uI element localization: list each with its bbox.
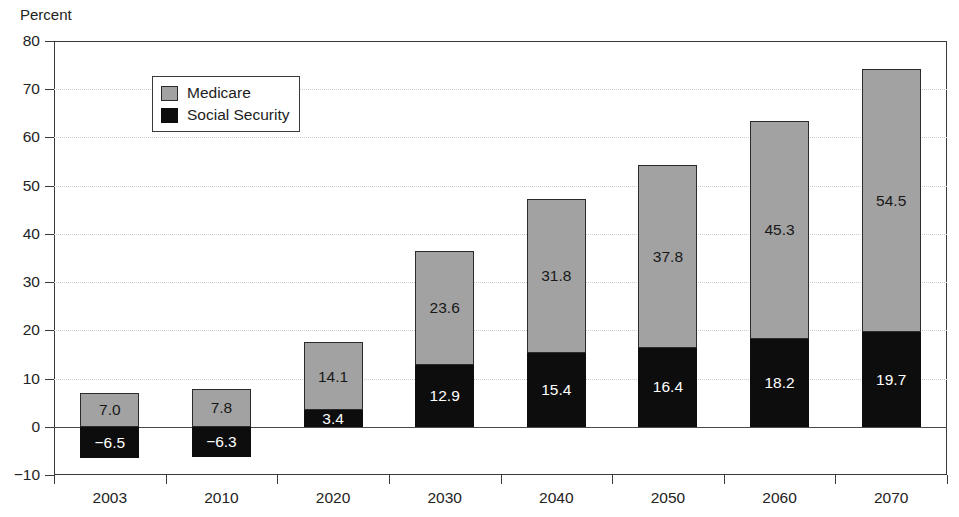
- x-tick-mark: [54, 475, 55, 484]
- y-tick-mark: [45, 427, 54, 428]
- legend-swatch-medicare: [161, 86, 178, 101]
- bar-value-label: 18.2: [764, 375, 794, 391]
- x-tick-label: 2010: [166, 489, 278, 507]
- x-tick-mark: [501, 475, 502, 484]
- bar-segment-medicare: 7.0: [80, 393, 139, 427]
- bar-value-label: 37.8: [653, 249, 683, 265]
- gridline: [54, 186, 947, 187]
- y-tick-label: 30: [0, 273, 40, 291]
- bar-segment-social-security: 16.4: [638, 348, 697, 427]
- bar-value-label: 45.3: [764, 222, 794, 238]
- gridline: [54, 379, 947, 380]
- x-tick-mark: [166, 475, 167, 484]
- y-axis-title: Percent: [20, 6, 72, 23]
- bar-value-label: −6.3: [206, 434, 237, 450]
- x-tick-label: 2020: [277, 489, 389, 507]
- bar-value-label: 7.0: [99, 402, 121, 418]
- x-tick-mark: [389, 475, 390, 484]
- legend-swatch-social-security: [161, 108, 178, 123]
- gridline: [54, 234, 947, 235]
- bar-segment-medicare: 45.3: [750, 121, 809, 339]
- y-tick-label: 80: [0, 32, 40, 50]
- bar-segment-social-security: 19.7: [862, 332, 921, 427]
- bar-value-label: 19.7: [876, 372, 906, 388]
- bar-segment-medicare: 54.5: [862, 69, 921, 332]
- x-tick-label: 2050: [612, 489, 724, 507]
- y-tick-label: 0: [0, 418, 40, 436]
- bar-segment-medicare: 14.1: [304, 342, 363, 410]
- x-tick-mark: [835, 475, 836, 484]
- bar-segment-social-security: −6.5: [80, 427, 139, 458]
- y-tick-mark: [45, 137, 54, 138]
- y-tick-mark: [45, 330, 54, 331]
- legend-item: Medicare: [161, 82, 290, 104]
- bar-segment-social-security: 18.2: [750, 339, 809, 427]
- legend-label: Social Security: [187, 107, 290, 123]
- bar-value-label: 14.1: [318, 369, 348, 385]
- bar-segment-social-security: −6.3: [192, 427, 251, 457]
- bar-value-label: 7.8: [211, 400, 233, 416]
- x-tick-label: 2070: [835, 489, 947, 507]
- x-tick-label: 2040: [501, 489, 613, 507]
- y-tick-label: 50: [0, 177, 40, 195]
- y-tick-label: 20: [0, 321, 40, 339]
- y-tick-mark: [45, 475, 54, 476]
- y-tick-mark: [45, 89, 54, 90]
- x-tick-mark: [277, 475, 278, 484]
- y-tick-mark: [45, 379, 54, 380]
- bar-value-label: 12.9: [430, 388, 460, 404]
- bar-segment-social-security: 12.9: [415, 365, 474, 427]
- x-tick-mark: [724, 475, 725, 484]
- y-tick-label: 10: [0, 370, 40, 388]
- legend-item: Social Security: [161, 104, 290, 126]
- gridline: [54, 330, 947, 331]
- x-tick-mark: [947, 475, 948, 484]
- zero-line: [54, 427, 947, 428]
- gridline: [54, 137, 947, 138]
- bar-value-label: 23.6: [430, 300, 460, 316]
- bar-value-label: 31.8: [541, 268, 571, 284]
- x-tick-label: 2060: [724, 489, 836, 507]
- bar-value-label: 16.4: [653, 379, 683, 395]
- bar-value-label: 3.4: [322, 411, 344, 427]
- y-tick-mark: [45, 41, 54, 42]
- legend-label: Medicare: [187, 85, 251, 101]
- bar-segment-social-security: 15.4: [527, 353, 586, 427]
- y-tick-label: 70: [0, 80, 40, 98]
- chart-legend: MedicareSocial Security: [152, 76, 300, 132]
- x-tick-label: 2030: [389, 489, 501, 507]
- y-tick-mark: [45, 234, 54, 235]
- x-tick-label: 2003: [54, 489, 166, 507]
- bar-segment-medicare: 37.8: [638, 165, 697, 347]
- bar-value-label: −6.5: [95, 435, 126, 451]
- bar-segment-medicare: 31.8: [527, 199, 586, 352]
- bar-segment-medicare: 23.6: [415, 251, 474, 365]
- y-tick-mark: [45, 282, 54, 283]
- y-tick-label: 40: [0, 225, 40, 243]
- gridline: [54, 282, 947, 283]
- y-tick-label: 60: [0, 128, 40, 146]
- bar-segment-social-security: 3.4: [304, 410, 363, 426]
- bar-value-label: 54.5: [876, 193, 906, 209]
- y-tick-mark: [45, 186, 54, 187]
- x-tick-mark: [612, 475, 613, 484]
- stacked-bar-chart: Percent 80706050403020100−10 20032010202…: [0, 0, 959, 517]
- y-tick-label: −10: [0, 466, 40, 484]
- bar-value-label: 15.4: [541, 382, 571, 398]
- bar-segment-medicare: 7.8: [192, 389, 251, 427]
